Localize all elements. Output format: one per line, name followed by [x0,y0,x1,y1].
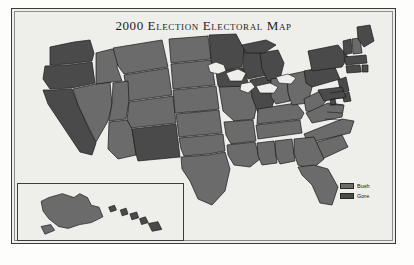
inset-map [18,184,183,240]
state-ks [176,110,222,137]
state-ri [362,65,368,72]
inset-region-alaska-aleutians [41,225,55,235]
state-fl [298,165,338,205]
state-mt [113,40,168,74]
alaska-hawaii-inset-box [17,183,184,241]
inset-region-hawaii-3 [130,212,139,220]
inset-region-hawaii-1 [109,205,117,212]
state-dc [330,99,336,105]
state-nd [169,36,211,63]
state-ar [224,120,256,144]
inset-region-alaska [41,194,103,229]
state-wa [50,40,94,65]
state-tx [181,152,230,205]
inset-region-hawaii-5 [148,222,162,232]
legend-item-bush: Bush [340,182,392,190]
inset-region-hawaii-4 [140,217,149,225]
states-layer [43,25,374,205]
state-ok [179,134,225,156]
state-ut [109,81,129,121]
inset-region-hawaii-2 [120,208,128,216]
legend-swatch-bush [340,183,354,189]
state-ne [173,86,219,113]
figure-frame: 2000 Election Electoral Map [11,8,396,244]
state-ny [308,45,348,71]
state-ct [346,65,361,73]
legend-label-gore: Gore [357,192,369,200]
legend-item-gore: Gore [340,192,392,200]
state-ms [257,141,277,165]
state-la [227,142,260,167]
state-nm [132,124,180,161]
inset-regions [41,194,162,235]
electoral-map-figure: 2000 Election Electoral Map [0,0,414,265]
state-ma [344,55,367,65]
state-al [275,139,295,164]
state-sd [171,60,215,89]
state-or [43,62,95,89]
legend-swatch-gore [340,193,354,199]
state-vt [343,39,352,55]
map-legend: BushGore [340,182,392,202]
legend-label-bush: Bush [357,182,370,190]
state-co [127,96,176,128]
